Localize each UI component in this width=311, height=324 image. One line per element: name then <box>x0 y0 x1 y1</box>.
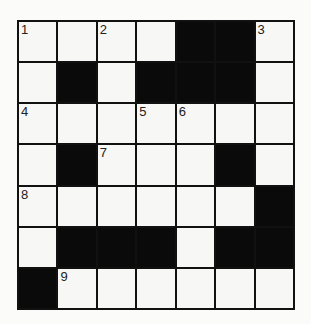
clue-number: 7 <box>100 146 107 159</box>
crossword-cell[interactable] <box>256 145 293 184</box>
crossword-cell[interactable] <box>58 22 95 61</box>
crossword-cell[interactable] <box>137 22 174 61</box>
black-cell <box>58 228 95 267</box>
black-cell <box>58 145 95 184</box>
black-cell <box>137 63 174 102</box>
crossword-cell[interactable] <box>98 269 135 308</box>
black-cell <box>177 22 214 61</box>
crossword-cell[interactable] <box>177 269 214 308</box>
black-cell <box>216 63 253 102</box>
black-cell <box>19 269 56 308</box>
clue-number: 4 <box>21 105 28 118</box>
crossword-cell[interactable] <box>137 269 174 308</box>
clue-number: 9 <box>60 270 67 283</box>
clue-number: 5 <box>139 105 146 118</box>
crossword-cell[interactable]: 5 <box>137 104 174 143</box>
crossword-cell[interactable] <box>98 104 135 143</box>
black-cell <box>256 228 293 267</box>
crossword-cell[interactable] <box>137 145 174 184</box>
clue-number: 2 <box>100 23 107 36</box>
crossword-cell[interactable] <box>177 187 214 226</box>
crossword-cell[interactable]: 3 <box>256 22 293 61</box>
black-cell <box>177 63 214 102</box>
crossword-cell[interactable] <box>58 187 95 226</box>
crossword-cell[interactable] <box>216 187 253 226</box>
black-cell <box>98 228 135 267</box>
black-cell <box>216 145 253 184</box>
crossword-cell[interactable]: 4 <box>19 104 56 143</box>
crossword-cell[interactable] <box>256 269 293 308</box>
crossword-grid: 123456789 <box>17 20 295 310</box>
crossword-cell[interactable] <box>137 187 174 226</box>
black-cell <box>137 228 174 267</box>
crossword-cell[interactable] <box>177 145 214 184</box>
crossword-cell[interactable] <box>58 104 95 143</box>
clue-number: 6 <box>179 105 186 118</box>
crossword-cell[interactable] <box>216 269 253 308</box>
clue-number: 8 <box>21 188 28 201</box>
crossword-cell[interactable] <box>98 63 135 102</box>
crossword-cell[interactable] <box>256 104 293 143</box>
crossword-cell[interactable]: 2 <box>98 22 135 61</box>
crossword-cell[interactable]: 8 <box>19 187 56 226</box>
crossword-cell[interactable]: 6 <box>177 104 214 143</box>
crossword-cell[interactable] <box>256 63 293 102</box>
crossword-cell[interactable] <box>98 187 135 226</box>
clue-number: 3 <box>258 23 265 36</box>
black-cell <box>216 22 253 61</box>
crossword-cell[interactable] <box>19 228 56 267</box>
black-cell <box>58 63 95 102</box>
crossword-cell[interactable]: 9 <box>58 269 95 308</box>
crossword-cell[interactable]: 7 <box>98 145 135 184</box>
crossword-cell[interactable] <box>19 63 56 102</box>
black-cell <box>216 228 253 267</box>
crossword-cell[interactable] <box>177 228 214 267</box>
black-cell <box>256 187 293 226</box>
crossword-cell[interactable]: 1 <box>19 22 56 61</box>
clue-number: 1 <box>21 23 28 36</box>
crossword-cell[interactable] <box>19 145 56 184</box>
crossword-cell[interactable] <box>216 104 253 143</box>
